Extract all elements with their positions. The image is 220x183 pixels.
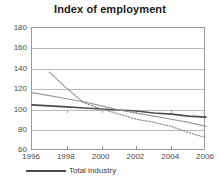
y-axis-label-140: 140	[0, 65, 27, 73]
legend-label-total-industry: Total industry	[69, 166, 116, 175]
y-axis-label-80: 80	[0, 126, 27, 134]
y-axis-label-100: 100	[0, 106, 27, 114]
series-lines	[32, 28, 206, 151]
y-axis-label-120: 120	[0, 85, 27, 93]
plot-area	[31, 27, 205, 150]
chart-legend: Total industry	[26, 166, 116, 175]
x-axis-label-2006: 2006	[190, 153, 220, 161]
x-axis-label-1998: 1998	[51, 153, 81, 161]
y-axis-label-180: 180	[0, 24, 27, 32]
employment-index-chart: Index of employment 180 160 140 120 100 …	[0, 0, 220, 183]
x-axis-label-2002: 2002	[120, 153, 150, 161]
series-line-1	[32, 105, 206, 117]
x-axis-label-1996: 1996	[16, 153, 46, 161]
x-axis-label-2004: 2004	[155, 153, 185, 161]
legend-swatch-total-industry	[26, 170, 66, 172]
series-line-2	[32, 93, 206, 127]
y-axis-label-160: 160	[0, 44, 27, 52]
x-axis-label-2000: 2000	[86, 153, 116, 161]
series-line-3	[49, 72, 206, 138]
chart-title: Index of employment	[0, 3, 220, 15]
